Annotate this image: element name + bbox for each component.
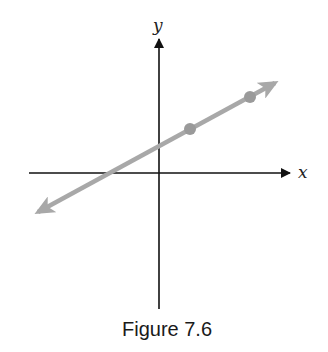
- x-axis-label: x: [298, 162, 308, 182]
- coordinate-plane-figure: y x: [0, 0, 328, 352]
- y-axis-label: y: [152, 15, 163, 35]
- figure-caption: Figure 7.6: [0, 318, 328, 341]
- point-marker-2: [244, 91, 256, 103]
- graphed-line: [38, 83, 275, 212]
- point-marker-1: [184, 123, 196, 135]
